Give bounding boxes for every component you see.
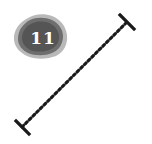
diagram-canvas bbox=[0, 0, 152, 144]
badge-number: 11 bbox=[26, 27, 60, 49]
